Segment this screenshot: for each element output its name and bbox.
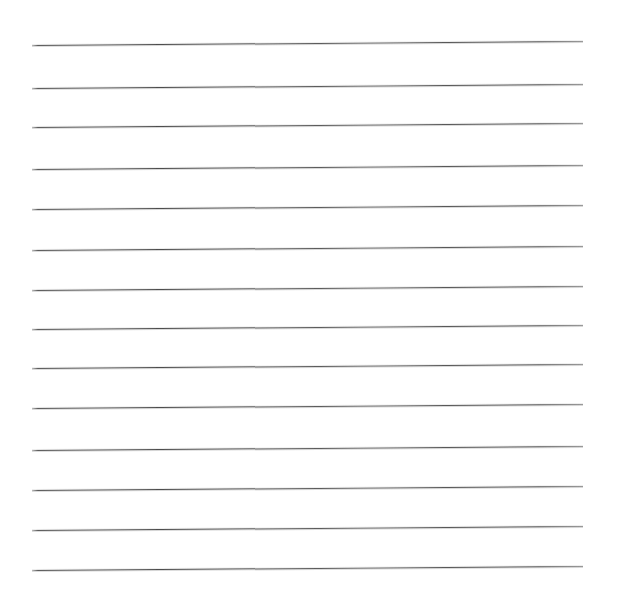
rule-line xyxy=(32,165,583,170)
paper-sheet xyxy=(0,0,617,614)
rule-line xyxy=(32,566,583,571)
ruled-line-group xyxy=(0,0,617,614)
rule-line xyxy=(32,404,583,409)
rule-line xyxy=(32,446,583,451)
rule-line xyxy=(32,486,583,491)
rule-line xyxy=(32,364,583,369)
rule-line xyxy=(32,205,583,210)
ruled-paper-canvas xyxy=(0,0,617,614)
rule-line xyxy=(32,84,583,89)
rule-line xyxy=(32,246,583,251)
rule-line xyxy=(32,325,583,330)
rule-line xyxy=(32,41,583,46)
rule-line xyxy=(32,123,583,128)
rule-line xyxy=(32,526,583,531)
rule-line xyxy=(32,286,583,291)
